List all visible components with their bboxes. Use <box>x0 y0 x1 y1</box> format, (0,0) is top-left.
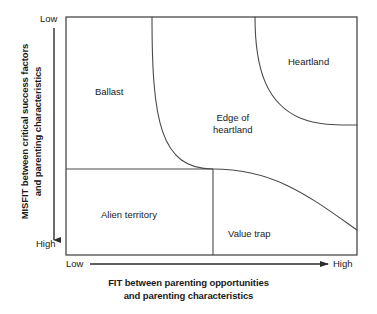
region-label-edge-line1: Edge of <box>213 112 253 124</box>
region-label-ballast: Ballast <box>95 86 124 98</box>
inner-boundary-arc <box>152 17 357 230</box>
region-label-heartland: Heartland <box>288 56 329 68</box>
matrix-drawing <box>0 0 377 314</box>
region-label-edge-of-heartland: Edge of heartland <box>213 112 253 136</box>
region-label-edge-line2: heartland <box>213 124 253 136</box>
x-axis-title-line2: and parenting characteristics <box>0 290 377 303</box>
outer-boundary-arc <box>255 17 357 125</box>
x-axis-title: FIT between parenting opportunities and … <box>0 277 377 302</box>
region-label-alien-territory: Alien territory <box>101 209 157 221</box>
x-axis-title-line1: FIT between parenting opportunities <box>0 277 377 290</box>
region-label-value-trap: Value trap <box>228 228 271 240</box>
parenting-matrix-figure: MISFIT between critical success factors … <box>0 0 377 314</box>
